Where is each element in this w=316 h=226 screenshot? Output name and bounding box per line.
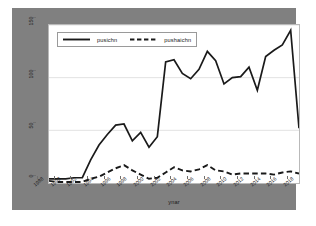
legend-entry: pushaichn (130, 35, 191, 44)
legend-dashed-line-icon (130, 35, 157, 44)
y-tick-label: 150 (29, 17, 34, 39)
x-axis-title: ynar (48, 199, 300, 205)
series-line-0 (49, 30, 299, 179)
figure: 050100150 198819901992199419961998200020… (0, 0, 316, 226)
figure-background: 050100150 198819901992199419961998200020… (12, 8, 296, 210)
legend-entry: pusichn (63, 35, 117, 44)
legend: pusichnpushaichn (57, 32, 197, 47)
plot-panel (48, 24, 300, 184)
plot-svg (49, 25, 299, 183)
legend-label: pusichn (97, 37, 117, 43)
legend-label: pushaichn (164, 37, 191, 43)
y-tick-label: 50 (29, 122, 34, 144)
legend-solid-line-icon (63, 35, 90, 44)
data-lines (49, 30, 299, 182)
y-tick-label: 100 (29, 70, 34, 92)
